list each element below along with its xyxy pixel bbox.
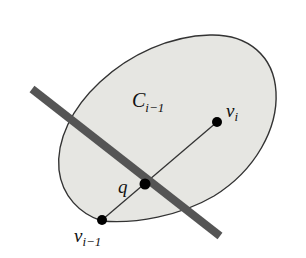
label-v-i-minus-1: vi−1	[74, 225, 101, 249]
diagram: Ci−1 vi q vi−1	[0, 0, 306, 258]
point-q	[140, 179, 151, 190]
point-v-i-minus-1	[97, 215, 107, 225]
label-q: q	[118, 176, 128, 197]
point-v-i	[212, 117, 222, 127]
